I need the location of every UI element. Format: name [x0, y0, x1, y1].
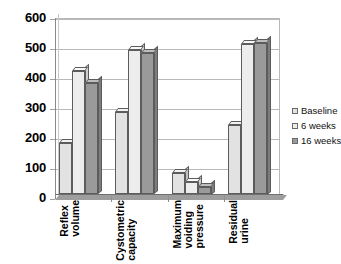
bar-face — [72, 71, 85, 194]
legend-item: 16 weeks — [292, 134, 339, 147]
bar-top — [254, 39, 270, 43]
legend-swatch — [292, 138, 298, 144]
bar — [254, 43, 267, 195]
x-axis-category-label: Maximumvoidingpressure — [172, 200, 236, 264]
legend: Baseline6 weeks16 weeks — [292, 104, 339, 149]
legend-swatch — [292, 108, 298, 114]
bar-face — [85, 83, 98, 194]
bar-face — [128, 50, 141, 194]
legend-swatch — [292, 123, 298, 129]
bar — [115, 112, 128, 195]
bar-face — [141, 53, 154, 194]
bar-top — [172, 169, 188, 173]
bar-face — [59, 143, 72, 194]
bar — [72, 71, 85, 194]
bar-face — [254, 43, 267, 195]
legend-item: 6 weeks — [292, 119, 339, 132]
bar-face — [241, 44, 254, 194]
x-axis-label-word: capacity — [126, 200, 137, 261]
bar — [128, 50, 141, 194]
bar — [185, 182, 198, 194]
bar-face — [172, 173, 185, 194]
bar — [241, 44, 254, 194]
bar-top — [185, 178, 201, 182]
bar — [141, 53, 154, 194]
bar — [59, 143, 72, 194]
bar — [172, 173, 185, 194]
bar-side — [154, 46, 158, 194]
legend-label: 16 weeks — [301, 136, 341, 146]
x-axis-category-label: Cystometriccapacity — [115, 200, 179, 264]
bar — [85, 83, 98, 194]
bar-face — [198, 187, 211, 195]
legend-item: Baseline — [292, 104, 339, 117]
legend-label: Baseline — [301, 106, 337, 116]
bar-face — [115, 112, 128, 195]
x-axis-label-word: urine — [239, 200, 250, 244]
bar-face — [228, 125, 241, 194]
bar-top — [198, 183, 214, 187]
bar-side — [267, 35, 271, 194]
x-axis-label-word: pressure — [194, 200, 205, 248]
x-axis-label-word: voiding — [183, 200, 194, 248]
bar — [228, 125, 241, 194]
x-axis-labels: ReflexvolumeCystometriccapacityMaximumvo… — [0, 198, 339, 264]
bar — [198, 187, 211, 195]
x-axis-label-word: volume — [70, 200, 81, 237]
x-axis-label-word: Maximum — [172, 200, 183, 248]
x-axis-category-label: Residualurine — [228, 200, 292, 264]
bar-face — [185, 182, 198, 194]
bar-side — [98, 76, 102, 194]
legend-label: 6 weeks — [301, 121, 336, 131]
